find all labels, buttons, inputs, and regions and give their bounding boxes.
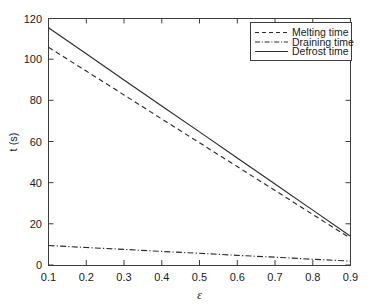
series-line-melting-time	[49, 47, 351, 238]
legend-label-defrost-time: Defrost time	[292, 45, 349, 57]
x-tick-label: 0.7	[267, 271, 282, 283]
chart-figure: 0 20 40 60 80 100 120 0.1 0.2 0.3 0.4 0.…	[0, 0, 370, 306]
y-tick-label: 0	[36, 259, 42, 271]
x-tick-labels: 0.1 0.2 0.3 0.4 0.5 0.6 0.7 0.8 0.9	[41, 271, 358, 283]
y-tick-labels: 0 20 40 60 80 100 120	[24, 13, 42, 272]
x-tick-label: 0.8	[305, 271, 320, 283]
series-group	[49, 28, 351, 261]
x-tick-label: 0.3	[116, 271, 131, 283]
line-chart: 0 20 40 60 80 100 120 0.1 0.2 0.3 0.4 0.…	[0, 0, 370, 306]
y-tick-label: 20	[30, 218, 42, 230]
y-tick-label: 80	[30, 94, 42, 106]
x-tick-label: 0.5	[192, 271, 207, 283]
x-tick-label: 0.6	[230, 271, 245, 283]
series-line-draining-time	[49, 245, 351, 261]
y-tick-label: 40	[30, 177, 42, 189]
legend: Melting time Draining time Defrost time	[251, 23, 355, 61]
y-axis-title: t (s)	[7, 133, 19, 152]
y-tick-label: 100	[24, 53, 42, 65]
y-tick-label: 120	[24, 13, 42, 25]
x-tick-label: 0.4	[154, 271, 169, 283]
x-tick-label: 0.1	[41, 271, 56, 283]
x-axis-title: ε	[197, 288, 202, 302]
x-tick-label: 0.2	[79, 271, 94, 283]
y-tick-label: 60	[30, 136, 42, 148]
x-tick-label: 0.9	[343, 271, 358, 283]
